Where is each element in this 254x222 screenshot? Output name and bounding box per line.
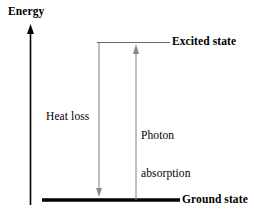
ground-state-label: Ground state [182,193,248,206]
photon-absorption-arrow [133,44,139,200]
energy-level-diagram: Energy Excited state Ground state Heat l… [0,0,254,222]
heat-loss-label: Heat loss [46,110,89,123]
diagram-canvas [0,0,254,222]
heat-loss-arrowhead-icon [96,188,102,197]
photon-absorption-label: Photon absorption [141,103,191,206]
energy-axis-arrowhead-icon [27,24,34,34]
photon-absorption-arrowhead-icon [133,44,139,54]
heat-loss-arrow [96,43,102,198]
excited-state-label: Excited state [172,35,236,48]
energy-axis [27,24,34,205]
photon-absorption-label-line2: absorption [141,167,191,180]
photon-absorption-label-line1: Photon [141,129,191,142]
energy-axis-label: Energy [8,5,44,18]
